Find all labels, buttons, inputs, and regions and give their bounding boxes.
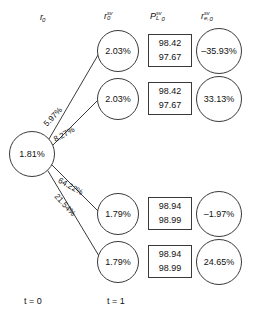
price-box-1-lower: 97.67 bbox=[159, 51, 182, 64]
price-box-3-upper: 98.94 bbox=[159, 200, 182, 213]
excess-return-node-3[interactable]: –1.97% bbox=[196, 191, 242, 237]
price-box-2[interactable]: 98.42 97.67 bbox=[148, 82, 192, 115]
excess-return-node-4[interactable]: 24.65% bbox=[196, 239, 242, 285]
price-box-2-lower: 97.67 bbox=[159, 99, 182, 112]
header-r0: r0 bbox=[40, 13, 45, 23]
excess-return-node-4-value: 24.65% bbox=[204, 257, 235, 267]
rate-node-3-value: 1.79% bbox=[105, 209, 131, 219]
header-re0-sv: rsve,0 bbox=[201, 11, 213, 22]
price-box-4[interactable]: 98.94 98.99 bbox=[148, 245, 192, 278]
rate-node-4-value: 1.79% bbox=[105, 257, 131, 267]
rate-node-2-value: 2.03% bbox=[105, 94, 131, 104]
header-p-l0-sv: PsvL0 bbox=[150, 11, 165, 22]
excess-return-node-2-value: 33.13% bbox=[204, 94, 235, 104]
rate-node-1-value: 2.03% bbox=[105, 46, 131, 56]
price-box-4-lower: 98.99 bbox=[159, 262, 182, 275]
header-r0-sv: rsv0 bbox=[104, 11, 113, 22]
excess-return-node-1[interactable]: –35.93% bbox=[196, 28, 242, 74]
price-box-3[interactable]: 98.94 98.99 bbox=[148, 197, 192, 230]
root-node-value: 1.81% bbox=[19, 149, 45, 159]
rate-node-2[interactable]: 2.03% bbox=[97, 78, 139, 120]
price-box-1[interactable]: 98.42 97.67 bbox=[148, 34, 192, 67]
price-box-3-lower: 98.99 bbox=[159, 214, 182, 227]
time-label-end: t = 1 bbox=[107, 296, 125, 306]
time-label-start: t = 0 bbox=[24, 296, 42, 306]
binomial-tree-figure: r0 rsv0 PsvL0 rsve,0 1.81% 5.97% 8.27% 6… bbox=[0, 0, 259, 319]
rate-node-3[interactable]: 1.79% bbox=[97, 193, 139, 235]
rate-node-4[interactable]: 1.79% bbox=[97, 241, 139, 283]
price-box-2-upper: 98.42 bbox=[159, 85, 182, 98]
rate-node-1[interactable]: 2.03% bbox=[97, 30, 139, 72]
excess-return-node-2[interactable]: 33.13% bbox=[196, 76, 242, 122]
edge-line-up-up bbox=[49, 55, 98, 139]
excess-return-node-1-value: –35.93% bbox=[201, 46, 237, 56]
root-node[interactable]: 1.81% bbox=[9, 131, 55, 177]
price-box-1-upper: 98.42 bbox=[159, 37, 182, 50]
price-box-4-upper: 98.94 bbox=[159, 248, 182, 261]
excess-return-node-3-value: –1.97% bbox=[204, 209, 235, 219]
